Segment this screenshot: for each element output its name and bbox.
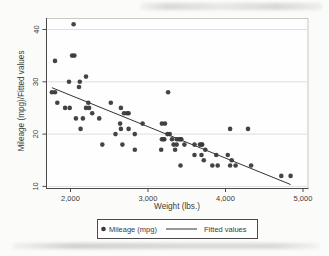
plot-area bbox=[47, 19, 309, 189]
data-point bbox=[279, 174, 284, 179]
scanned-figure: 10203040 2,0003,0004,0005,000 Mileage (m… bbox=[0, 0, 329, 256]
data-point bbox=[140, 121, 145, 126]
data-point bbox=[215, 163, 220, 168]
y-tick-label: 10 bbox=[32, 182, 41, 190]
data-point bbox=[192, 142, 197, 147]
data-point bbox=[228, 163, 233, 168]
data-point bbox=[133, 148, 138, 153]
data-point bbox=[161, 137, 166, 142]
data-point bbox=[170, 137, 175, 142]
legend-label-fitted: Fitted values bbox=[204, 225, 247, 234]
data-point bbox=[228, 127, 233, 132]
data-point bbox=[97, 116, 102, 121]
data-point bbox=[229, 158, 234, 163]
data-point bbox=[182, 142, 187, 147]
data-point bbox=[55, 100, 60, 105]
data-point bbox=[178, 137, 183, 142]
x-tick-label: 2,000 bbox=[61, 194, 80, 203]
scatter-marker-icon bbox=[101, 227, 106, 232]
y-tick-label: 40 bbox=[32, 25, 41, 33]
data-point bbox=[192, 153, 197, 158]
data-point bbox=[288, 174, 293, 179]
data-point bbox=[78, 127, 83, 132]
legend-label-mileage: Mileage (mpg) bbox=[109, 225, 157, 234]
scan-artifact-bottom-shadow bbox=[12, 243, 320, 249]
x-axis-ticks: 2,0003,0004,0005,000 bbox=[61, 189, 312, 203]
scatter-plot: 10203040 2,0003,0004,0005,000 Mileage (m… bbox=[0, 0, 329, 256]
x-axis-title: Weight (lbs.) bbox=[154, 202, 200, 211]
data-point bbox=[133, 132, 138, 137]
y-tick-label: 20 bbox=[32, 130, 41, 138]
data-point bbox=[120, 142, 125, 147]
y-tick-label: 30 bbox=[32, 78, 41, 86]
data-point bbox=[249, 163, 254, 168]
data-point bbox=[77, 85, 82, 90]
data-point bbox=[50, 90, 55, 95]
data-point bbox=[246, 127, 251, 132]
legend: Mileage (mpg) Fitted values bbox=[98, 220, 258, 239]
data-point bbox=[113, 132, 118, 137]
data-point bbox=[71, 22, 76, 27]
data-point bbox=[100, 142, 105, 147]
data-point bbox=[210, 163, 215, 168]
data-point bbox=[81, 116, 86, 121]
data-point bbox=[166, 90, 171, 95]
data-point bbox=[173, 148, 178, 153]
x-tick-label: 5,000 bbox=[294, 194, 313, 203]
data-point bbox=[202, 158, 207, 163]
data-point bbox=[214, 153, 219, 158]
data-point bbox=[119, 106, 124, 111]
data-point bbox=[203, 148, 208, 153]
y-axis-title: Mileage (mpg)/Fitted values bbox=[17, 50, 26, 151]
data-point bbox=[122, 111, 127, 116]
data-point bbox=[178, 163, 183, 168]
data-point bbox=[163, 121, 168, 126]
data-point bbox=[126, 127, 131, 132]
data-point bbox=[53, 59, 58, 64]
data-point bbox=[118, 121, 123, 126]
data-point bbox=[67, 106, 72, 111]
data-point bbox=[78, 80, 83, 85]
data-point bbox=[90, 111, 95, 116]
data-point bbox=[167, 132, 172, 137]
data-point bbox=[74, 116, 79, 121]
data-point bbox=[171, 142, 176, 147]
data-point bbox=[226, 153, 231, 158]
data-point bbox=[233, 163, 238, 168]
y-axis-ticks: 10203040 bbox=[32, 25, 47, 190]
data-point bbox=[63, 106, 68, 111]
data-point bbox=[109, 100, 114, 105]
x-tick-label: 4,000 bbox=[216, 194, 235, 203]
data-point bbox=[87, 106, 92, 111]
data-point bbox=[67, 80, 72, 85]
data-point bbox=[159, 148, 164, 153]
data-point bbox=[72, 53, 77, 58]
data-point bbox=[200, 142, 205, 147]
data-point bbox=[119, 127, 124, 132]
data-point bbox=[84, 74, 89, 79]
data-point bbox=[199, 153, 204, 158]
data-point bbox=[86, 100, 91, 105]
